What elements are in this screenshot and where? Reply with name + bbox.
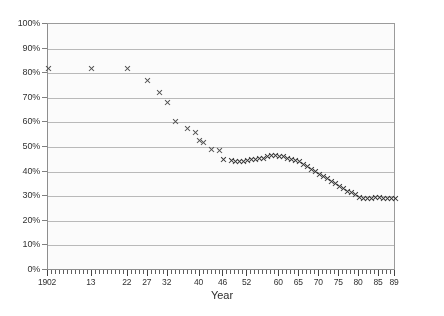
data-point xyxy=(217,148,223,154)
data-point xyxy=(201,139,207,145)
data-point xyxy=(284,155,290,161)
x-axis-minor-tick xyxy=(326,270,327,274)
x-axis-ticks xyxy=(47,270,396,276)
x-axis-minor-tick xyxy=(155,270,156,274)
data-point xyxy=(248,156,254,162)
x-axis-minor-tick xyxy=(143,270,144,274)
data-point xyxy=(260,155,266,161)
x-axis-tick-label: 27 xyxy=(142,277,151,287)
x-axis-minor-tick xyxy=(270,270,271,274)
x-axis-minor-tick xyxy=(123,270,124,274)
x-axis-major-tick xyxy=(91,270,92,276)
data-point xyxy=(272,153,278,159)
data-point xyxy=(328,178,334,184)
y-axis-tick-label: 60% xyxy=(23,116,40,126)
x-axis-minor-tick xyxy=(366,270,367,274)
x-axis-minor-tick xyxy=(390,270,391,274)
data-point xyxy=(236,159,242,165)
x-axis-minor-tick xyxy=(354,270,355,274)
x-axis-minor-tick xyxy=(87,270,88,274)
data-point xyxy=(232,159,238,165)
x-axis-minor-tick xyxy=(330,270,331,274)
data-point xyxy=(304,164,310,170)
data-point xyxy=(165,100,171,106)
data-point xyxy=(185,126,191,132)
gridline xyxy=(48,73,394,74)
x-axis-minor-tick xyxy=(374,270,375,274)
x-axis-tick-label: 32 xyxy=(162,277,171,287)
x-axis-major-tick xyxy=(378,270,379,276)
x-axis-major-tick xyxy=(298,270,299,276)
x-axis-minor-tick xyxy=(51,270,52,274)
x-axis-tick-label: 40 xyxy=(194,277,203,287)
x-axis-tick-label: 22 xyxy=(122,277,131,287)
x-axis-major-tick xyxy=(278,270,279,276)
x-axis-minor-tick xyxy=(67,270,68,274)
x-axis-tick-label: 80 xyxy=(354,277,363,287)
x-axis-tick-label: 60 xyxy=(274,277,283,287)
data-point xyxy=(228,158,234,164)
y-axis-tick-label: 90% xyxy=(23,43,40,53)
x-axis-minor-tick xyxy=(135,270,136,274)
gridline xyxy=(48,49,394,50)
x-axis-tick-label: 89 xyxy=(389,277,398,287)
x-axis-minor-tick xyxy=(95,270,96,274)
x-axis-minor-tick xyxy=(274,270,275,274)
x-axis-tick-label: 13 xyxy=(86,277,95,287)
x-axis-minor-tick xyxy=(187,270,188,274)
x-axis-minor-tick xyxy=(266,270,267,274)
data-point xyxy=(145,78,151,84)
x-axis-minor-tick xyxy=(175,270,176,274)
x-axis-major-tick xyxy=(147,270,148,276)
x-axis-minor-tick xyxy=(238,270,239,274)
data-point xyxy=(332,181,338,187)
gridline xyxy=(48,221,394,222)
x-axis-major-tick xyxy=(338,270,339,276)
y-axis-tick-label: 80% xyxy=(23,67,40,77)
x-axis-minor-tick xyxy=(139,270,140,274)
x-axis-minor-tick xyxy=(195,270,196,274)
x-axis-minor-tick xyxy=(234,270,235,274)
y-axis-tick-label: 20% xyxy=(23,215,40,225)
data-point xyxy=(336,183,342,189)
data-point xyxy=(256,155,262,161)
x-axis-minor-tick xyxy=(59,270,60,274)
gridline xyxy=(48,147,394,148)
data-point xyxy=(157,90,163,96)
x-axis-major-tick xyxy=(358,270,359,276)
x-axis-minor-tick xyxy=(302,270,303,274)
x-axis-major-tick xyxy=(318,270,319,276)
data-point xyxy=(244,158,250,164)
x-axis-minor-tick xyxy=(254,270,255,274)
x-axis-minor-tick xyxy=(310,270,311,274)
x-axis-minor-tick xyxy=(151,270,152,274)
data-point xyxy=(300,161,306,167)
gridline xyxy=(48,245,394,246)
x-axis-minor-tick xyxy=(71,270,72,274)
x-axis-tick-label: 85 xyxy=(374,277,383,287)
x-axis-minor-tick xyxy=(250,270,251,274)
x-axis-minor-tick xyxy=(230,270,231,274)
x-axis-major-tick xyxy=(47,270,48,276)
y-axis-tick-label: 30% xyxy=(23,190,40,200)
x-axis-major-tick xyxy=(167,270,168,276)
data-point xyxy=(264,154,270,160)
x-axis-minor-tick xyxy=(159,270,160,274)
x-axis-minor-tick xyxy=(163,270,164,274)
x-axis-minor-tick xyxy=(171,270,172,274)
x-axis-minor-tick xyxy=(83,270,84,274)
x-axis-major-tick xyxy=(127,270,128,276)
x-axis-minor-tick xyxy=(215,270,216,274)
y-axis-tick-label: 70% xyxy=(23,92,40,102)
x-axis-minor-tick xyxy=(282,270,283,274)
x-axis-minor-tick xyxy=(107,270,108,274)
y-axis: 0%10%20%30%40%50%60%70%80%90%100% xyxy=(0,0,47,294)
x-axis-minor-tick xyxy=(290,270,291,274)
data-point xyxy=(344,188,350,194)
data-point xyxy=(197,138,203,144)
x-axis-minor-tick xyxy=(258,270,259,274)
x-axis-major-tick xyxy=(394,270,395,276)
x-axis-minor-tick xyxy=(99,270,100,274)
data-point xyxy=(352,192,358,198)
x-axis-minor-tick xyxy=(306,270,307,274)
